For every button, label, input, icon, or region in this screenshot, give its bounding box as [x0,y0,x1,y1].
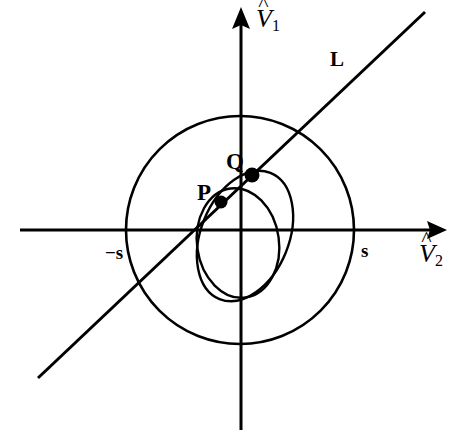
v2-axis-label: ^ V 2 [419,241,443,269]
point-Q-label: Q [226,150,244,173]
v1-subscript: 1 [272,17,280,34]
v2-subscript: 2 [435,252,443,269]
point-Q-dot [245,168,260,183]
geometry-diagram [0,0,470,444]
line-L [38,12,425,378]
hat-accent-v1: ^ [258,0,268,15]
diagram-canvas: ^ V 1 ^ V 2 −s s L P Q [0,0,470,444]
v1-axis-label: ^ V 1 [256,6,280,34]
point-P-label: P [197,181,211,204]
s-tick-label: s [361,241,368,260]
neg-s-tick-label: −s [105,243,123,262]
line-L-label: L [330,49,344,70]
vertical-axis [232,7,250,430]
hat-accent-v2: ^ [421,228,431,250]
point-P-dot [215,196,228,209]
horizontal-axis [20,221,447,239]
